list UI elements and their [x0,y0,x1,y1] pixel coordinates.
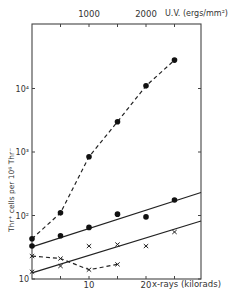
x2-tick-label: 2000 [135,9,157,19]
series-layer [29,57,201,273]
y-tick-label: 10³ [16,148,29,157]
dashed-line [32,256,118,270]
data-point-circle [29,236,35,242]
data-point-circle [172,197,178,203]
y-tick-label: 10⁴ [16,85,29,94]
data-point-circle [29,243,35,249]
data-point-cross [115,242,119,246]
y-tick-label: 10 [19,275,29,284]
data-point-circle [86,225,92,231]
data-point-circle [86,154,92,160]
data-point-cross [87,244,91,248]
chart: 1020100020001010²10³10⁴ x-rays (kilorads… [0,0,235,291]
x-axis-label: x-rays (kilorads) [152,279,221,289]
data-point-circle [115,211,121,217]
data-point-circle [58,233,64,239]
x-tick-label: 10 [84,280,95,290]
data-point-circle [143,214,149,220]
data-point-circle [58,210,64,216]
x-tick-label: 20 [141,280,152,290]
axes: 1020100020001010²10³10⁴ [16,9,201,290]
data-point-circle [172,57,178,63]
data-point-cross [144,244,148,248]
y-axis-label: Thr⁺ cells per 10⁶ Thr⁻ [7,148,16,233]
data-point-circle [143,83,149,89]
data-point-cross [172,230,176,234]
data-point-circle [115,119,121,125]
x2-tick-label: 1000 [78,9,100,19]
dashed-line [32,60,175,239]
top-axis-label: U.V. (ergs/mm²) [165,9,228,18]
y-tick-label: 10² [16,212,29,221]
